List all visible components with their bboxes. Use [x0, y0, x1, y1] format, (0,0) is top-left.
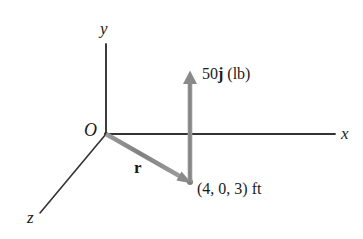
position-vector-label: r — [134, 159, 142, 176]
position-vector-shaft — [106, 134, 183, 178]
force-vector-group — [183, 71, 197, 183]
application-point-label: (4, 0, 3) ft — [197, 181, 261, 197]
origin-label: O — [84, 121, 97, 139]
force-vector-label: 50j (lb) — [202, 66, 250, 82]
z-axis-label: z — [27, 209, 34, 226]
force-magnitude-text: 50 — [202, 65, 218, 82]
x-axis-label: x — [341, 125, 349, 142]
y-axis-label: y — [100, 20, 108, 37]
z-axis-line — [40, 134, 106, 213]
force-vector-shaft — [188, 80, 193, 182]
force-vector-arrowhead — [183, 71, 197, 85]
position-vector-group — [106, 134, 193, 185]
force-vector-diagram: y x z O r 50j (lb) (4, 0, 3) ft — [0, 0, 363, 239]
diagram-canvas — [0, 0, 363, 239]
force-units-text: (lb) — [223, 65, 250, 82]
